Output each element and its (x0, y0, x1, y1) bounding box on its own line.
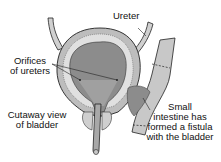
label-ureter: Ureter (113, 11, 139, 21)
label-cutaway: Cutaway view of bladder (6, 110, 68, 130)
label-orifices-line2: of ureters (4, 66, 56, 76)
label-cutaway-line2: of bladder (6, 120, 68, 130)
label-orifices: Orifices of ureters (4, 56, 56, 76)
left-ureter (48, 18, 63, 50)
label-intestine: Small intestine has formed a fistula wit… (140, 102, 220, 142)
leader-ureter (138, 28, 146, 36)
label-intestine-line4: with the bladder (140, 132, 220, 142)
